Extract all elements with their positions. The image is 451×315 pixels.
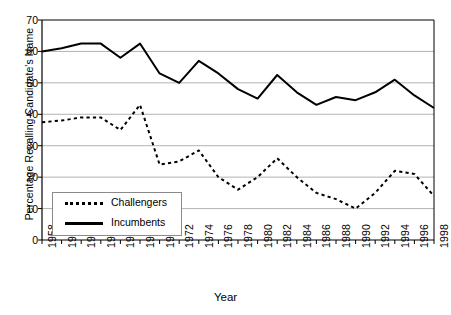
legend-swatch-dotted-icon xyxy=(65,202,103,205)
legend-entry-challengers: Challengers xyxy=(53,193,181,214)
chart-legend: Challengers Incumbents xyxy=(52,192,182,236)
legend-label-incumbents: Incumbents xyxy=(111,216,165,228)
legend-label-challengers: Challengers xyxy=(111,196,167,208)
series-line-incumbents xyxy=(42,44,434,108)
legend-swatch-solid-icon xyxy=(65,222,103,225)
legend-entry-incumbents: Incumbents xyxy=(53,213,181,234)
chart-plot-area xyxy=(0,0,451,315)
